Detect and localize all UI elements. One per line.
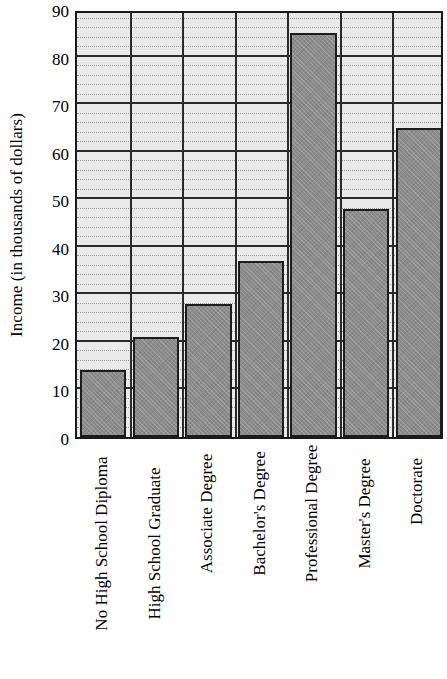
gridline-major: [77, 150, 441, 152]
plot-area: [75, 11, 443, 439]
gridline-minor: [77, 122, 441, 123]
y-axis-tick-label: 90: [52, 3, 69, 20]
gridline-minor: [77, 94, 441, 95]
y-axis-tick-label: 20: [52, 335, 69, 352]
bar: [80, 370, 126, 437]
gridline-minor: [77, 141, 441, 142]
bar-chart: Income (in thousands of dollars) 0102030…: [0, 0, 447, 679]
gridline-minor: [77, 65, 441, 66]
y-axis-tick-label: 60: [52, 145, 69, 162]
x-axis-tick-label-text: Master's Degree: [356, 458, 373, 568]
y-axis-title: Income (in thousands of dollars): [0, 0, 34, 450]
x-axis-tick-label: Professional Degree: [285, 443, 338, 679]
y-axis-tick-label: 50: [52, 193, 69, 210]
x-axis-tick-label-text: High School Graduate: [145, 467, 162, 619]
bar: [290, 33, 336, 437]
bar: [185, 304, 231, 437]
x-axis-tick-label: Doctorate: [390, 443, 443, 679]
gridline-minor: [77, 179, 441, 180]
gridline-vertical: [130, 13, 132, 437]
gridline-minor: [77, 84, 441, 85]
bar: [133, 337, 179, 437]
y-axis-tick-label: 0: [61, 431, 70, 448]
gridline-vertical: [340, 13, 342, 437]
gridline-vertical: [287, 13, 289, 437]
bar: [343, 209, 389, 437]
x-axis-tick-labels: No High School DiplomaHigh School Gradua…: [75, 443, 443, 679]
x-axis-tick-label: High School Graduate: [128, 443, 181, 679]
x-axis-tick-label: Master's Degree: [338, 443, 391, 679]
gridline-minor: [77, 46, 441, 47]
x-axis-tick-label-text: No High School Diploma: [93, 456, 110, 630]
x-axis-tick-label: Bachelor's Degree: [233, 443, 286, 679]
x-axis-tick-label-text: Doctorate: [408, 458, 425, 525]
gridline-vertical: [392, 13, 394, 437]
y-axis-tick-label: 30: [52, 288, 69, 305]
y-axis-tick-label: 40: [52, 240, 69, 257]
gridline-minor: [77, 189, 441, 190]
y-axis-tick-label: 70: [52, 98, 69, 115]
gridline-vertical: [235, 13, 237, 437]
y-axis-tick-label: 80: [52, 50, 69, 67]
x-axis-tick-label-text: Bachelor's Degree: [250, 451, 267, 575]
x-axis-tick-label-text: Associate Degree: [198, 454, 215, 573]
x-axis-tick-label-text: Professional Degree: [303, 445, 320, 582]
bar: [396, 128, 442, 437]
bar: [238, 261, 284, 437]
y-axis-title-label: Income (in thousands of dollars): [7, 113, 27, 337]
gridline-minor: [77, 132, 441, 133]
gridline-major: [77, 55, 441, 57]
gridline-minor: [77, 18, 441, 19]
gridline-minor: [77, 37, 441, 38]
y-axis-tick-label: 10: [52, 383, 69, 400]
y-axis-tick-labels: 0102030405060708090: [34, 0, 73, 450]
gridline-minor: [77, 160, 441, 161]
gridline-minor: [77, 113, 441, 114]
x-axis-tick-label: No High School Diploma: [75, 443, 128, 679]
gridline-minor: [77, 75, 441, 76]
gridline-vertical: [182, 13, 184, 437]
x-axis-tick-label: Associate Degree: [180, 443, 233, 679]
gridline-minor: [77, 27, 441, 28]
gridline-minor: [77, 170, 441, 171]
gridline-major: [77, 102, 441, 104]
gridline-major: [77, 197, 441, 199]
